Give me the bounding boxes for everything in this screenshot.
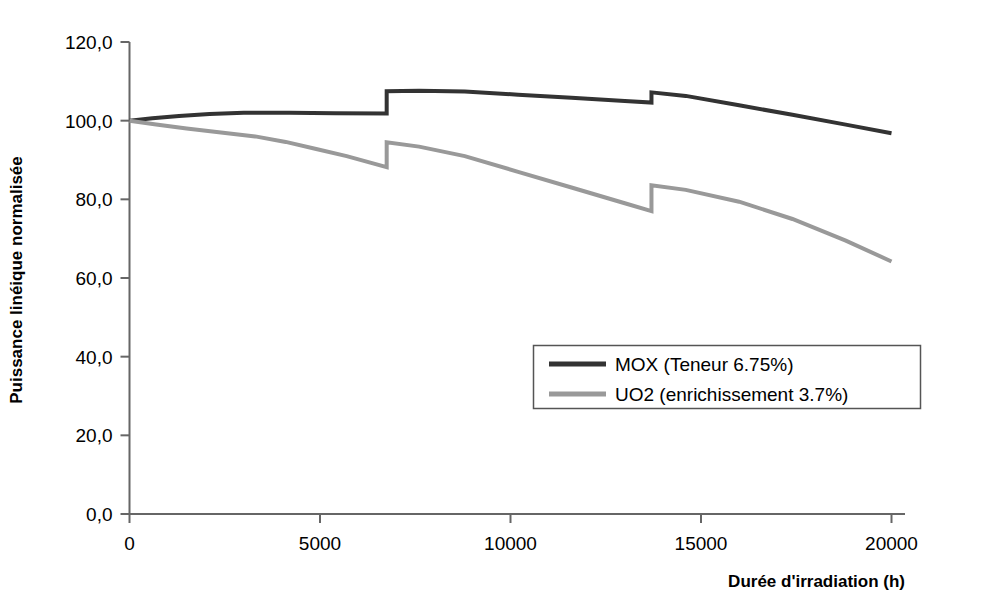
x-tick-label: 10000 — [484, 533, 537, 554]
y-tick-label: 120,0 — [65, 32, 113, 53]
x-tick-label: 0 — [124, 533, 135, 554]
line-chart: 0,020,040,060,080,0100,0120,0 0500010000… — [0, 0, 991, 601]
x-tick-label: 5000 — [299, 533, 341, 554]
x-axis-title: Durée d'irradiation (h) — [728, 572, 905, 591]
y-axis-ticks: 0,020,040,060,080,0100,0120,0 — [65, 32, 130, 525]
x-tick-label: 20000 — [865, 533, 918, 554]
legend-label: MOX (Teneur 6.75%) — [615, 354, 793, 375]
data-series-line — [130, 121, 892, 262]
x-axis-ticks: 05000100001500020000 — [124, 514, 918, 554]
y-tick-label: 60,0 — [76, 268, 113, 289]
y-tick-label: 0,0 — [86, 504, 112, 525]
x-tick-label: 15000 — [675, 533, 728, 554]
data-series-layer — [130, 91, 892, 262]
y-tick-label: 40,0 — [76, 347, 113, 368]
y-tick-label: 80,0 — [76, 189, 113, 210]
chart-container: 0,020,040,060,080,0100,0120,0 0500010000… — [0, 0, 991, 601]
chart-legend: MOX (Teneur 6.75%)UO2 (enrichissement 3.… — [534, 346, 921, 409]
y-axis-title: Puissance linéique normalisée — [7, 156, 26, 404]
y-tick-label: 100,0 — [65, 111, 113, 132]
data-series-line — [130, 91, 892, 133]
y-tick-label: 20,0 — [76, 425, 113, 446]
legend-label: UO2 (enrichissement 3.7%) — [615, 384, 848, 405]
